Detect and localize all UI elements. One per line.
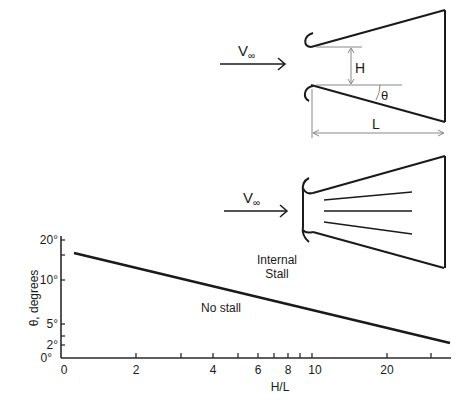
x-tick-label: 10 [308,363,322,377]
x-tick-label: 4 [210,363,217,377]
splitter-vane [324,222,412,234]
y-tick-label: 20° [40,233,58,247]
x-tick-label: 2 [133,363,140,377]
splitter-vane [324,192,412,200]
freestream-velocity-label: V∞ [238,42,255,61]
stall-chart: 20° 10° 5° 2° 0° θ, degrees 0 2 4 6 8 [27,233,451,394]
internal-stall-label: Internal [257,253,297,267]
diffuser-stall-figure: V∞ H θ L V∞ [0,0,472,414]
y-tick-label: 5° [47,317,59,331]
x-tick-label: 6 [255,363,262,377]
angle-arc [376,85,380,100]
x-axis-label: H/L [271,380,290,394]
diffuser-geometry-diagram: V∞ H θ L [220,10,445,138]
upper-wall [313,156,445,193]
no-stall-label: No stall [201,301,241,315]
upper-lip [305,33,313,47]
angle-label: θ [381,88,388,103]
y-tick-label: 0° [41,351,53,365]
x-tick-label: 0 [61,363,68,377]
y-tick-label: 10° [40,273,58,287]
freestream-velocity-label: V∞ [243,189,260,208]
y-axis-label: θ, degrees [27,270,41,327]
upper-wall [311,10,445,47]
height-label: H [355,60,365,76]
length-label: L [372,116,380,132]
y-tick-label: 2° [47,338,59,352]
vaned-diffuser-diagram: V∞ [224,156,445,268]
lower-wall [313,232,444,268]
internal-stall-label: Stall [265,267,288,281]
x-tick-label: 8 [285,363,292,377]
x-tick-label: 20 [380,363,394,377]
